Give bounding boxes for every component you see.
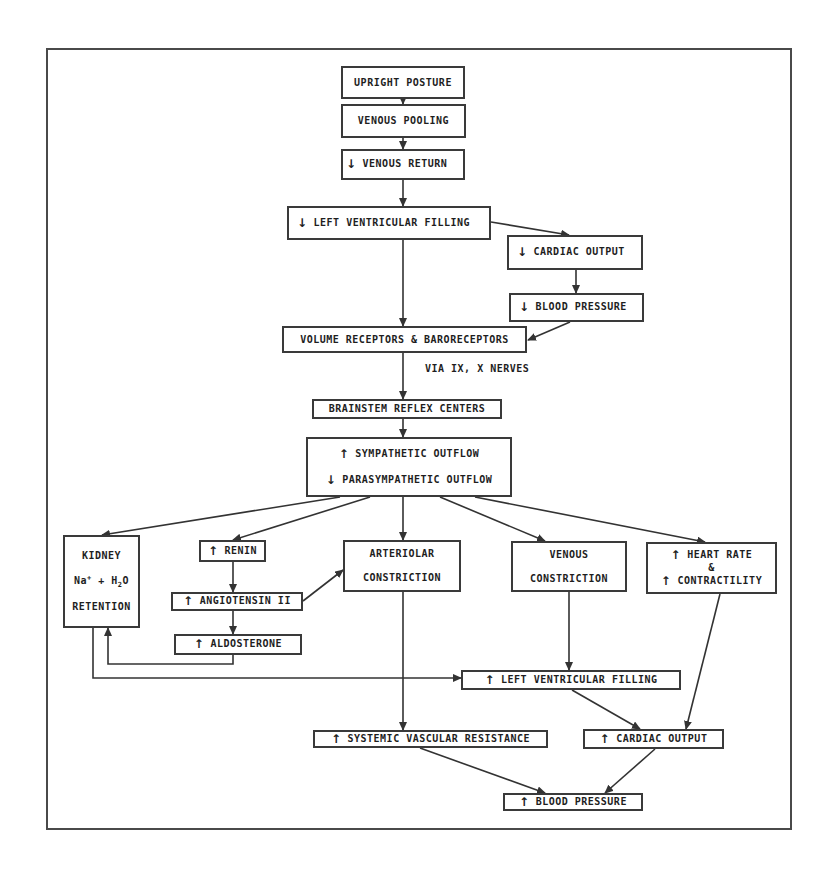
arrow-up-icon: ↑: [339, 447, 350, 461]
node-arteriolar-constriction: ARTERIOLAR CONSTRICTION: [343, 540, 461, 592]
node-label-na-h2o: Na+ + H2O: [74, 574, 129, 590]
node-label: ALDOSTERONE: [210, 638, 282, 650]
node-lv-filling-decreased: ↓ LEFT VENTRICULAR FILLING: [287, 206, 491, 240]
arrow-up-icon: ↑: [600, 732, 611, 746]
node-label-contractility: CONTRACTILITY: [677, 575, 762, 587]
node-label-line1: VENOUS: [549, 549, 588, 561]
node-label-retention: RETENTION: [72, 601, 131, 613]
node-label: LEFT VENTRICULAR FILLING: [314, 217, 471, 229]
arrow-up-icon: ↑: [484, 673, 495, 687]
node-label-heart-rate: HEART RATE: [687, 549, 752, 561]
node-heart-rate-contractility: ↑ HEART RATE & ↑ CONTRACTILITY: [646, 542, 777, 594]
arrow-down-icon: ↓: [297, 216, 308, 230]
arrow-up-icon: ↑: [671, 548, 682, 562]
arrow-up-icon: ↑: [331, 732, 342, 746]
node-angiotensin: ↑ ANGIOTENSIN II: [171, 592, 303, 611]
node-renin: ↑ RENIN: [199, 540, 266, 562]
node-venous-constriction: VENOUS CONSTRICTION: [511, 541, 627, 592]
arrow-down-icon: ↓: [346, 157, 357, 171]
node-label-line2: CONSTRICTION: [363, 572, 441, 584]
node-aldosterone: ↑ ALDOSTERONE: [174, 634, 302, 655]
node-systemic-vascular-resistance: ↑ SYSTEMIC VASCULAR RESISTANCE: [313, 730, 548, 748]
node-label-line1: ARTERIOLAR: [369, 548, 434, 560]
node-label: BRAINSTEM REFLEX CENTERS: [329, 403, 486, 415]
node-label: ANGIOTENSIN II: [200, 595, 291, 607]
node-venous-pooling: VENOUS POOLING: [341, 104, 466, 138]
node-label: UPRIGHT POSTURE: [354, 77, 452, 89]
node-kidney: KIDNEY Na+ + H2O RETENTION: [63, 535, 140, 628]
node-cardiac-output-decreased: ↓ CARDIAC OUTPUT: [507, 235, 643, 270]
node-label: SYSTEMIC VASCULAR RESISTANCE: [347, 733, 530, 745]
node-label-ampersand: &: [708, 562, 715, 574]
o-text: O: [123, 575, 130, 586]
node-blood-pressure-decreased: ↓ BLOOD PRESSURE: [509, 293, 644, 322]
node-label-parasympathetic: PARASYMPATHETIC OUTFLOW: [342, 474, 492, 486]
node-label-kidney: KIDNEY: [82, 550, 121, 562]
node-label: BLOOD PRESSURE: [536, 796, 627, 808]
node-label: BLOOD PRESSURE: [536, 301, 627, 313]
arrow-up-icon: ↑: [183, 594, 194, 608]
arrow-down-icon: ↓: [326, 473, 337, 487]
node-label: CARDIAC OUTPUT: [616, 733, 707, 745]
node-receptors: VOLUME RECEPTORS & BARORECEPTORS: [282, 326, 527, 353]
node-label: VOLUME RECEPTORS & BARORECEPTORS: [300, 334, 509, 346]
node-autonomic-outflow: ↑ SYMPATHETIC OUTFLOW ↓ PARASYMPATHETIC …: [306, 437, 512, 497]
node-brainstem: BRAINSTEM REFLEX CENTERS: [312, 399, 502, 419]
node-label: RENIN: [224, 545, 257, 557]
node-venous-return: ↓ VENOUS RETURN: [341, 149, 465, 180]
node-label: CARDIAC OUTPUT: [534, 246, 625, 258]
node-label: VENOUS RETURN: [363, 158, 448, 170]
plus-h-text: + H: [92, 575, 118, 586]
node-label: LEFT VENTRICULAR FILLING: [501, 674, 658, 686]
node-cardiac-output-increased: ↑ CARDIAC OUTPUT: [583, 729, 724, 749]
arrow-down-icon: ↓: [519, 300, 530, 314]
node-upright-posture: UPRIGHT POSTURE: [341, 66, 465, 99]
node-lv-filling-increased: ↑ LEFT VENTRICULAR FILLING: [461, 670, 681, 690]
node-blood-pressure-increased: ↑ BLOOD PRESSURE: [503, 793, 643, 811]
arrow-up-icon: ↑: [208, 544, 219, 558]
annotation-nerves: VIA IX, X NERVES: [425, 363, 529, 374]
node-label-line2: CONSTRICTION: [530, 573, 608, 585]
arrow-up-icon: ↑: [519, 795, 530, 809]
arrow-up-icon: ↑: [194, 637, 205, 651]
arrow-down-icon: ↓: [517, 245, 528, 259]
na-text: Na: [74, 575, 87, 586]
arrow-up-icon: ↑: [661, 574, 672, 588]
node-label-sympathetic: SYMPATHETIC OUTFLOW: [355, 448, 479, 460]
node-label: VENOUS POOLING: [358, 115, 449, 127]
